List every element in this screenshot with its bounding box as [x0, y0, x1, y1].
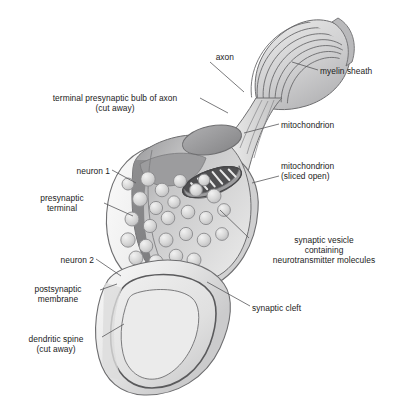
label-dendritic-spine-line-2: (cut away) [12, 344, 100, 354]
synaptic-vesicle [125, 212, 139, 226]
label-dendritic-spine-line-1: dendritic spine [12, 334, 100, 344]
label-synaptic-vesicle-line-2: containing [251, 245, 397, 255]
synaptic-vesicle [155, 183, 169, 197]
myelin-sheath-shape [251, 18, 354, 111]
synaptic-vesicle [199, 211, 212, 224]
dendritic-spine-shape [96, 260, 231, 395]
synaptic-vesicle [139, 239, 153, 253]
leader-line-axon [210, 62, 244, 92]
label-presynaptic-terminal: presynapticterminal [22, 193, 102, 213]
label-dendritic-spine: dendritic spine(cut away) [12, 334, 100, 354]
label-synaptic-cleft: synaptic cleft [252, 303, 334, 313]
synaptic-vesicle [143, 219, 156, 232]
label-synaptic-vesicle: synaptic vesiclecontainingneurotransmitt… [251, 235, 397, 266]
label-synaptic-vesicle-line-1: synaptic vesicle [251, 235, 397, 245]
label-neuron-1: neuron 1 [54, 166, 110, 176]
synaptic-vesicle [179, 227, 192, 240]
label-presynaptic-terminal-line-2: terminal [22, 203, 102, 213]
synaptic-vesicle [216, 228, 229, 241]
label-postsynaptic-membrane: postsynapticmembrane [18, 284, 98, 304]
synaptic-vesicle [197, 233, 211, 247]
label-mitochondrion-line-1: mitochondrion [281, 120, 367, 130]
label-myelin-sheath: myelin sheath [320, 66, 402, 76]
label-neuron-1-line-1: neuron 1 [54, 166, 110, 176]
synaptic-vesicle [218, 204, 231, 217]
synaptic-vesicle [141, 172, 155, 186]
label-postsynaptic-membrane-line-1: postsynaptic [18, 284, 98, 294]
synaptic-vesicle [207, 189, 221, 203]
label-terminal-presynaptic-bulb-of-axon-line-2: (cut away) [32, 103, 198, 113]
label-mitochondrion-sliced-open-line-2: (sliced open) [281, 171, 367, 181]
leader-line-mitochondrion-sliced-open [252, 176, 279, 183]
synaptic-vesicle [168, 196, 180, 208]
label-synaptic-cleft-line-1: synaptic cleft [252, 303, 334, 313]
synaptic-vesicle [122, 178, 134, 190]
label-synaptic-vesicle-line-3: neurotransmitter molecules [251, 255, 397, 265]
label-mitochondrion-sliced-open: mitochondrion(sliced open) [281, 161, 367, 181]
synaptic-vesicle [149, 201, 162, 214]
synaptic-vesicle [174, 175, 187, 188]
label-axon: axon [188, 52, 234, 62]
label-neuron-2-line-1: neuron 2 [38, 255, 94, 265]
synaptic-vesicle [181, 205, 195, 219]
label-terminal-presynaptic-bulb-of-axon: terminal presynaptic bulb of axon(cut aw… [32, 93, 198, 113]
label-myelin-sheath-line-1: myelin sheath [320, 66, 402, 76]
label-postsynaptic-membrane-line-2: membrane [18, 294, 98, 304]
synaptic-vesicle [159, 233, 173, 247]
label-neuron-2: neuron 2 [38, 255, 94, 265]
figure-canvas: axonmyelin sheathterminal presynaptic bu… [0, 0, 402, 401]
synaptic-vesicle [190, 184, 203, 197]
label-presynaptic-terminal-line-1: presynaptic [22, 193, 102, 203]
synaptic-vesicle [133, 192, 148, 207]
leader-line-terminal-presynaptic-bulb [200, 98, 228, 113]
label-terminal-presynaptic-bulb-of-axon-line-1: terminal presynaptic bulb of axon [32, 93, 198, 103]
synaptic-vesicle [198, 174, 210, 186]
label-mitochondrion-sliced-open-line-1: mitochondrion [281, 161, 367, 171]
label-axon-line-1: axon [188, 52, 234, 62]
label-mitochondrion: mitochondrion [281, 120, 367, 130]
synaptic-vesicle [161, 211, 175, 225]
synaptic-vesicle [121, 233, 135, 247]
